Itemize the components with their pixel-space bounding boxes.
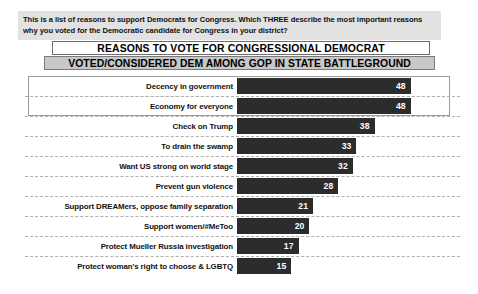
bar-value-label: 38	[360, 121, 375, 131]
bar: 20	[237, 218, 309, 234]
bar-category-label: Protect woman's right to choose & LGBTQ	[3, 262, 233, 271]
bar-value-label: 48	[396, 101, 411, 111]
bar-wrapper: 15	[237, 258, 291, 274]
bar: 38	[237, 118, 375, 134]
bar-category-label: Prevent gun violence	[3, 182, 233, 191]
bar-row: Want US strong on world stage32	[0, 156, 478, 176]
survey-question-banner: This is a list of reasons to support Dem…	[18, 11, 441, 40]
bar-value-label: 21	[298, 201, 313, 211]
bar-row: Support DREAMers, oppose family separati…	[0, 196, 478, 216]
bar-value-label: 48	[396, 81, 411, 91]
bar-wrapper: 33	[237, 138, 356, 154]
bar: 33	[237, 138, 356, 154]
bar-wrapper: 38	[237, 118, 375, 134]
bar-wrapper: 28	[237, 178, 338, 194]
bar-value-label: 32	[338, 161, 353, 171]
bar-chart-plot-area: Decency in government48Economy for every…	[0, 74, 478, 294]
bar-row: Prevent gun violence28	[0, 176, 478, 196]
bar-category-label: Want US strong on world stage	[3, 162, 233, 171]
bar: 48	[237, 78, 411, 94]
bar-category-label: Support women/#MeToo	[3, 222, 233, 231]
bar-category-label: Check on Trump	[3, 122, 233, 131]
bar-category-label: Decency in government	[3, 82, 233, 91]
bar-category-label: Economy for everyone	[3, 102, 233, 111]
bar-wrapper: 48	[237, 78, 411, 94]
bar: 32	[237, 158, 353, 174]
bar-category-label: To drain the swamp	[3, 142, 233, 151]
bar-row: Decency in government48	[0, 76, 478, 96]
chart-title: REASONS TO VOTE FOR CONGRESSIONAL DEMOCR…	[97, 43, 384, 54]
chart-subtitle-box: VOTED/CONSIDERED DEM AMONG GOP IN STATE …	[44, 56, 435, 70]
bar-row: Support women/#MeToo20	[0, 216, 478, 236]
bar-row: Protect woman's right to choose & LGBTQ1…	[0, 256, 478, 276]
bar-wrapper: 32	[237, 158, 353, 174]
bar-value-label: 28	[324, 181, 339, 191]
bar: 48	[237, 98, 411, 114]
grid-line	[25, 96, 460, 97]
bar-row: Check on Trump38	[0, 116, 478, 136]
chart-title-box: REASONS TO VOTE FOR CONGRESSIONAL DEMOCR…	[52, 41, 430, 55]
bar: 28	[237, 178, 338, 194]
bar-value-label: 15	[277, 261, 292, 271]
bar-category-label: Support DREAMers, oppose family separati…	[3, 202, 233, 211]
bar-category-label: Protect Mueller Russia investigation	[3, 242, 233, 251]
bar-wrapper: 48	[237, 98, 411, 114]
bar: 15	[237, 258, 291, 274]
bar-row: To drain the swamp33	[0, 136, 478, 156]
bar-value-label: 33	[342, 141, 357, 151]
bar-row: Economy for everyone48	[0, 96, 478, 116]
bar: 21	[237, 198, 313, 214]
bar-row: Protect Mueller Russia investigation17	[0, 236, 478, 256]
bar-value-label: 17	[284, 241, 299, 251]
bar: 17	[237, 238, 299, 254]
bar-wrapper: 21	[237, 198, 313, 214]
bar-value-label: 20	[295, 221, 310, 231]
bar-wrapper: 20	[237, 218, 309, 234]
bar-wrapper: 17	[237, 238, 299, 254]
survey-question-text: This is a list of reasons to support Dem…	[23, 15, 422, 35]
chart-subtitle: VOTED/CONSIDERED DEM AMONG GOP IN STATE …	[68, 58, 411, 69]
